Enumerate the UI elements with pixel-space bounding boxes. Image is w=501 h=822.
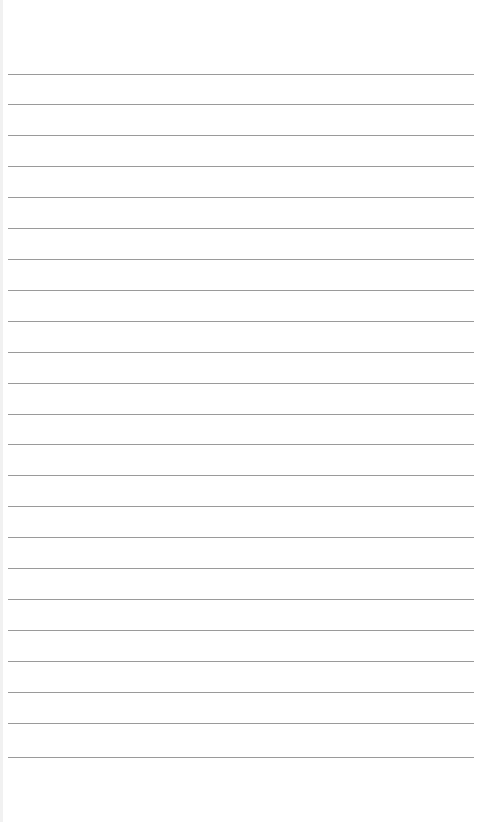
ruled-line [8, 352, 474, 353]
ruled-line [8, 599, 474, 600]
ruled-line [8, 74, 474, 75]
page-edge [0, 0, 3, 822]
ruled-line [8, 568, 474, 569]
ruled-line [8, 197, 474, 198]
ruled-line [8, 475, 474, 476]
ruled-line [8, 166, 474, 167]
ruled-line [8, 723, 474, 724]
ruled-line [8, 383, 474, 384]
ruled-line [8, 259, 474, 260]
ruled-line [8, 321, 474, 322]
ruled-line [8, 414, 474, 415]
ruled-line [8, 290, 474, 291]
ruled-line [8, 506, 474, 507]
ruled-line [8, 537, 474, 538]
ruled-line [8, 661, 474, 662]
ruled-line [8, 104, 474, 105]
ruled-line [8, 692, 474, 693]
ruled-line [8, 444, 474, 445]
ruled-line [8, 135, 474, 136]
ruled-line [8, 757, 474, 758]
ruled-line [8, 228, 474, 229]
ruled-line [8, 630, 474, 631]
